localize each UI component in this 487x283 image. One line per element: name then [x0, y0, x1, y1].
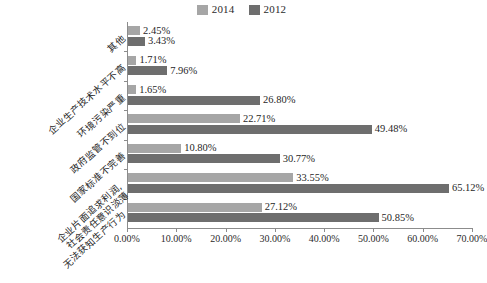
bar-2012-其他[interactable] [128, 37, 145, 46]
bar-value-label: 22.71% [240, 114, 275, 125]
bar-row-2012: 49.48% [128, 125, 472, 134]
bar-row-2012: 3.43% [128, 37, 472, 46]
plot-area: 2.45%3.43%1.71%7.96%1.65%26.80%22.71%49.… [127, 22, 472, 228]
bar-group: 22.71%49.48% [128, 110, 472, 139]
bar-value-label: 50.85% [379, 212, 414, 223]
x-axis-tick-label: 10.00% [161, 234, 192, 244]
legend-label: 2012 [264, 4, 287, 15]
bar-row-2014: 33.55% [128, 173, 472, 182]
bar-value-label: 49.48% [372, 124, 407, 134]
x-axis-tick-mark [373, 228, 374, 232]
bar-row-2012: 26.80% [128, 96, 472, 105]
x-axis-tick-label: 60.00% [407, 234, 438, 244]
bar-2014-企业片面追求利润,社会责任意识淡薄[interactable] [128, 173, 293, 182]
x-axis-tick-mark [472, 228, 473, 232]
bar-row-2014: 2.45% [128, 26, 472, 35]
y-axis-category-labels: 其他企业生产技术水平不高环境污染严重政府监管不到位国家标准不完善企业片面追求利润… [0, 0, 130, 283]
bar-value-label: 27.12% [262, 202, 297, 213]
legend-label: 2014 [212, 4, 235, 15]
x-axis-tick-label: 50.00% [358, 234, 389, 244]
bar-group: 1.71%7.96% [128, 51, 472, 80]
bar-group: 2.45%3.43% [128, 22, 472, 51]
bar-2014-无法获知生产行为[interactable] [128, 203, 262, 212]
bar-group: 10.80%30.77% [128, 140, 472, 169]
bar-row-2014: 22.71% [128, 114, 472, 123]
bar-row-2014: 1.65% [128, 85, 472, 94]
x-axis-tick-label: 30.00% [259, 234, 290, 244]
bar-value-label: 65.12% [449, 183, 484, 194]
x-axis-tick-mark [226, 228, 227, 232]
bar-value-label: 30.77% [280, 153, 315, 164]
bar-value-label: 33.55% [293, 172, 328, 183]
bar-row-2014: 27.12% [128, 203, 472, 212]
bar-2012-政府监管不到位[interactable] [128, 125, 372, 134]
x-axis-tick-mark [275, 228, 276, 232]
legend-swatch-icon-2012 [249, 5, 260, 15]
legend-entry-2012[interactable]: 2012 [249, 4, 287, 15]
bar-2014-国家标准不完善[interactable] [128, 144, 181, 153]
bar-row-2012: 65.12% [128, 184, 472, 193]
bar-2012-国家标准不完善[interactable] [128, 154, 280, 163]
bar-2012-企业片面追求利润,社会责任意识淡薄[interactable] [128, 184, 449, 193]
bar-value-label: 1.65% [136, 84, 166, 95]
x-axis-tick-label: 70.00% [457, 234, 487, 244]
bar-value-label: 7.96% [167, 65, 197, 76]
bar-value-label: 1.71% [136, 55, 166, 66]
bar-row-2012: 30.77% [128, 154, 472, 163]
bar-row-2012: 50.85% [128, 213, 472, 222]
bar-value-label: 26.80% [260, 95, 295, 106]
bar-2012-企业生产技术水平不高[interactable] [128, 66, 167, 75]
bar-2012-无法获知生产行为[interactable] [128, 213, 379, 222]
bar-2014-政府监管不到位[interactable] [128, 114, 240, 123]
bar-group: 1.65%26.80% [128, 81, 472, 110]
x-axis-tick-mark [176, 228, 177, 232]
bar-value-label: 3.43% [145, 36, 175, 47]
x-axis-tick-label: 40.00% [309, 234, 340, 244]
x-axis-tick-mark [423, 228, 424, 232]
legend-swatch-icon-2014 [197, 5, 208, 15]
bar-group: 33.55%65.12% [128, 169, 472, 198]
bar-value-label: 10.80% [181, 143, 216, 154]
x-axis-tick-mark [324, 228, 325, 232]
legend-entry-2014[interactable]: 2014 [197, 4, 235, 15]
x-axis-tick-label: 20.00% [210, 234, 241, 244]
x-axis-ticks: 0.00%10.00%20.00%30.00%40.00%50.00%60.00… [127, 228, 473, 252]
bar-group: 27.12%50.85% [128, 199, 472, 228]
bar-row-2012: 7.96% [128, 66, 472, 75]
bar-2012-环境污染严重[interactable] [128, 96, 260, 105]
